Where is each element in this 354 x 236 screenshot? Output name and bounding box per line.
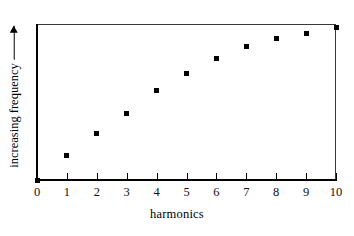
plot-frame [36,24,336,180]
x-tick-label: 3 [112,185,142,199]
data-point [184,71,189,76]
data-point [154,88,159,93]
data-point [334,25,339,30]
up-arrow-icon [10,25,19,59]
x-tick-label: 7 [231,185,261,199]
x-tick [127,173,128,180]
x-tick-label: 2 [82,185,112,199]
y-axis-title-label: increasing frequency [7,63,22,167]
x-tick-label: 5 [172,185,202,199]
y-axis-title: increasing frequency [6,18,22,174]
x-tick-label: 4 [142,185,172,199]
x-tick [336,173,337,180]
x-tick-label: 1 [52,185,82,199]
x-tick [97,173,98,180]
x-tick [157,173,158,180]
x-tick [187,173,188,180]
x-tick [216,173,217,180]
x-tick [246,173,247,180]
x-tick-label: 0 [22,185,52,199]
x-tick-label: 8 [261,185,291,199]
x-tick [306,173,307,180]
x-tick [67,173,68,180]
data-point [35,178,40,183]
x-tick-label: 10 [321,185,351,199]
data-point [94,131,99,136]
x-axis-title: harmonics [0,207,354,222]
chart-figure: 012345678910 harmonics increasing freque… [0,0,354,236]
x-tick-label: 9 [291,185,321,199]
data-point [244,44,249,49]
data-point [124,111,129,116]
y-axis-line [36,24,38,181]
x-tick-label: 6 [201,185,231,199]
x-tick [276,173,277,180]
data-point [64,153,69,158]
data-point [214,56,219,61]
data-point [304,31,309,36]
data-point [274,36,279,41]
